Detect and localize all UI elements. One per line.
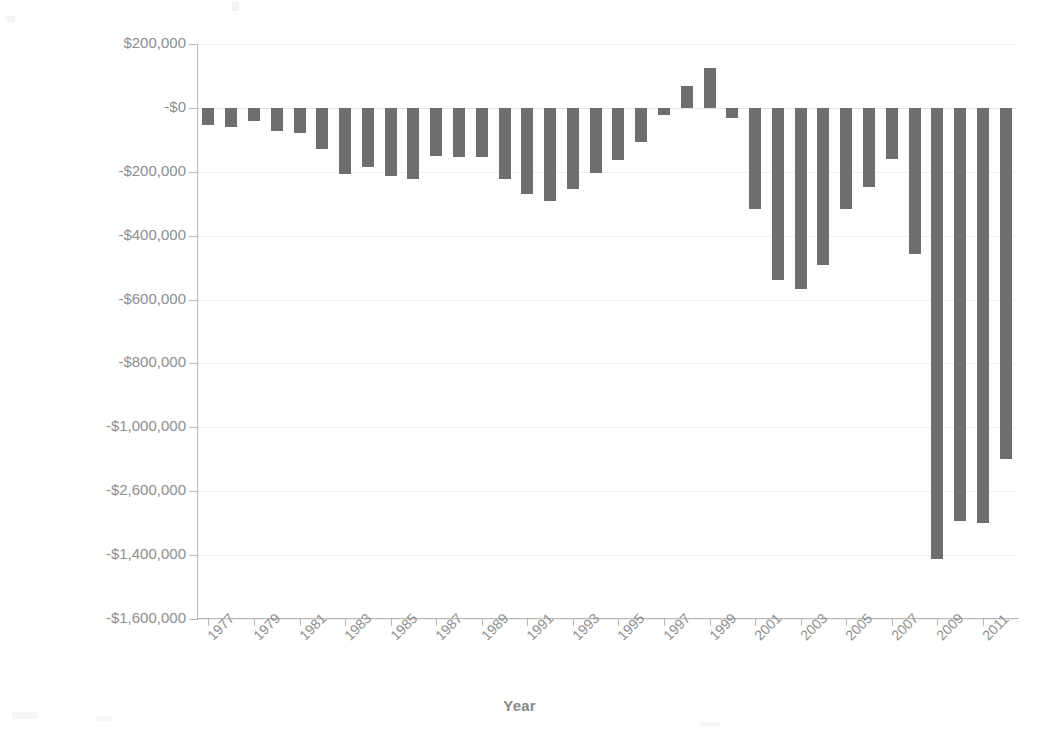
gridline (197, 555, 1017, 556)
y-tick-mark (189, 427, 198, 428)
bar (954, 108, 966, 521)
x-tick-mark (801, 618, 802, 626)
bar (681, 86, 693, 108)
bar (385, 108, 397, 176)
bar (225, 108, 237, 127)
bar (202, 108, 214, 125)
bar (772, 108, 784, 280)
bar (499, 108, 511, 179)
y-tick-label: -$400,000 (26, 226, 186, 243)
bar (521, 108, 533, 194)
bar (840, 108, 852, 210)
y-tick-label: $200,000 (26, 34, 186, 51)
y-tick-label: -$600,000 (26, 290, 186, 307)
y-tick-mark (189, 108, 198, 109)
bar (795, 108, 807, 289)
bar (909, 108, 921, 254)
bar (430, 108, 442, 156)
x-tick-mark (755, 618, 756, 626)
y-tick-mark (189, 44, 198, 45)
x-tick-mark (482, 618, 483, 626)
bar (977, 108, 989, 523)
y-tick-mark (189, 555, 198, 556)
bar (248, 108, 260, 121)
x-tick-mark (710, 618, 711, 626)
gridline (197, 44, 1017, 45)
bar (476, 108, 488, 157)
gridline (197, 172, 1017, 173)
bar (316, 108, 328, 149)
bar (704, 68, 716, 108)
x-tick-mark (983, 618, 984, 626)
y-tick-label: -$800,000 (26, 353, 186, 370)
x-tick-mark (937, 618, 938, 626)
x-tick-mark (436, 618, 437, 626)
bar (567, 108, 579, 189)
bar (635, 108, 647, 142)
bar (407, 108, 419, 179)
y-tick-mark (189, 172, 198, 173)
x-tick-mark (391, 618, 392, 626)
bar (612, 108, 624, 160)
bar (749, 108, 761, 209)
plot-area (197, 44, 1017, 619)
bar (339, 108, 351, 174)
gridline (197, 363, 1017, 364)
bar (817, 108, 829, 265)
y-axis-tick-labels: $200,000-$0-$200,000-$400,000-$600,000-$… (20, 0, 186, 746)
gridline (197, 491, 1017, 492)
gridline (197, 427, 1017, 428)
y-tick-label: -$200,000 (26, 162, 186, 179)
bar (590, 108, 602, 173)
y-tick-label: -$1,000,000 (26, 417, 186, 434)
bar (1000, 108, 1012, 459)
y-tick-label: -$1,600,000 (26, 609, 186, 626)
x-tick-mark (345, 618, 346, 626)
x-tick-mark (573, 618, 574, 626)
bar (362, 108, 374, 167)
y-tick-label: -$2,600,000 (26, 481, 186, 498)
y-tick-mark (189, 236, 198, 237)
y-tick-label: -$1,400,000 (26, 545, 186, 562)
bar (544, 108, 556, 201)
y-tick-mark (189, 363, 198, 364)
bar (658, 108, 670, 115)
bar (726, 108, 738, 118)
x-tick-mark (846, 618, 847, 626)
deficit-bar-chart: Millions of Dollars Year $200,000-$0-$20… (0, 0, 1039, 746)
gridline (197, 236, 1017, 237)
bar (294, 108, 306, 133)
y-tick-mark (189, 619, 198, 620)
y-tick-mark (189, 300, 198, 301)
x-tick-mark (892, 618, 893, 626)
bar (271, 108, 283, 132)
y-tick-mark (189, 491, 198, 492)
bar (931, 108, 943, 559)
x-tick-mark (664, 618, 665, 626)
bar (863, 108, 875, 187)
y-tick-label: -$0 (26, 98, 186, 115)
bar (886, 108, 898, 159)
gridline (197, 300, 1017, 301)
x-tick-mark (254, 618, 255, 626)
bar (453, 108, 465, 158)
x-tick-mark (527, 618, 528, 626)
x-tick-mark (300, 618, 301, 626)
